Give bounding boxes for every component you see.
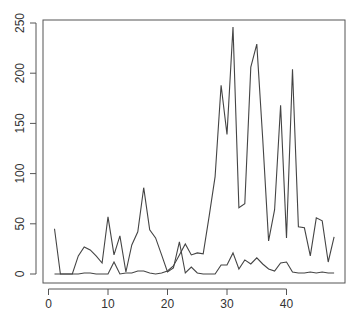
x-axis: 010203040 <box>45 289 293 311</box>
line-chart: 050100150200250 010203040 <box>0 0 362 325</box>
series-line-series_2 <box>55 27 335 274</box>
x-tick-label: 20 <box>161 297 175 311</box>
x-tick-label: 40 <box>280 297 294 311</box>
x-tick-label: 10 <box>101 297 115 311</box>
y-tick-label: 150 <box>13 113 27 133</box>
y-tick-label: 100 <box>13 163 27 183</box>
series-group <box>55 27 335 274</box>
y-tick-label: 0 <box>13 270 27 277</box>
y-axis: 050100150200250 <box>13 13 36 278</box>
x-tick-label: 0 <box>45 297 52 311</box>
plot-box <box>43 20 345 283</box>
y-tick-label: 50 <box>13 217 27 231</box>
y-tick-label: 200 <box>13 63 27 83</box>
x-tick-label: 30 <box>220 297 234 311</box>
y-tick-label: 250 <box>13 13 27 33</box>
series-line-series_1 <box>55 188 335 274</box>
